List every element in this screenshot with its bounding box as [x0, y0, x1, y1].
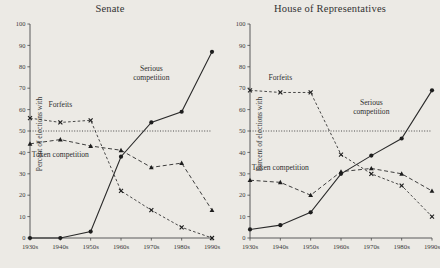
data-point-serious-competition: [58, 236, 62, 240]
chart-svg-house: 01020304050607080901001930s1940s1950s196…: [220, 0, 440, 268]
x-tick-label: 1940s: [52, 243, 69, 250]
data-point-token-competition: [179, 161, 184, 165]
annotation-forfeits: Forfeits: [49, 100, 73, 109]
figure-root: Senate Percent of elections with 0102030…: [0, 0, 440, 268]
y-tick-label: 80: [239, 63, 246, 70]
data-point-serious-competition: [248, 227, 252, 231]
chart-panel-senate: Senate Percent of elections with 0102030…: [0, 0, 220, 268]
y-tick-label: 50: [239, 127, 246, 134]
y-tick-label: 80: [19, 63, 26, 70]
x-tick-label: 1960s: [113, 243, 130, 250]
data-point-serious-competition: [28, 236, 32, 240]
x-tick-label: 1940s: [272, 243, 289, 250]
y-tick-label: 30: [19, 170, 26, 177]
chart-panel-house: House of Representatives Percent of elec…: [220, 0, 440, 268]
y-tick-label: 60: [239, 106, 246, 113]
data-point-serious-competition: [89, 229, 93, 233]
x-tick-label: 1980s: [394, 243, 411, 250]
annotation-serious-competition: competition: [133, 73, 169, 82]
x-tick-label: 1990s: [424, 243, 440, 250]
x-tick-label: 1970s: [363, 243, 380, 250]
annotation-serious-competition: Serious: [360, 98, 383, 107]
data-point-token-competition: [430, 188, 435, 192]
data-point-serious-competition: [119, 155, 123, 159]
data-point-serious-competition: [430, 88, 434, 92]
series-line-forfeits: [250, 90, 432, 216]
series-line-serious-competition: [250, 90, 432, 229]
plot-area-senate: 01020304050607080901001930s1940s1950s196…: [0, 0, 220, 268]
data-point-serious-competition: [400, 136, 404, 140]
x-tick-label: 1930s: [242, 243, 259, 250]
data-point-token-competition: [369, 166, 374, 170]
x-tick-label: 1950s: [303, 243, 320, 250]
y-tick-label: 100: [236, 20, 246, 27]
data-point-token-competition: [339, 169, 344, 173]
chart-svg-senate: 01020304050607080901001930s1940s1950s196…: [0, 0, 220, 268]
y-tick-label: 40: [239, 149, 246, 156]
x-tick-label: 1990s: [204, 243, 221, 250]
y-tick-label: 70: [239, 84, 246, 91]
y-tick-label: 90: [239, 42, 246, 49]
data-point-serious-competition: [210, 50, 214, 54]
data-point-serious-competition: [369, 154, 373, 158]
data-point-serious-competition: [180, 110, 184, 114]
y-tick-label: 60: [19, 106, 26, 113]
series-line-serious-competition: [30, 52, 212, 238]
annotation-serious-competition: competition: [353, 107, 389, 116]
y-tick-label: 30: [239, 170, 246, 177]
data-point-token-competition: [58, 137, 63, 141]
y-tick-label: 100: [16, 20, 26, 27]
y-tick-label: 70: [19, 84, 26, 91]
y-tick-label: 40: [19, 149, 26, 156]
y-tick-label: 20: [19, 191, 26, 198]
x-tick-label: 1950s: [83, 243, 100, 250]
y-tick-label: 0: [22, 234, 25, 241]
x-tick-label: 1980s: [174, 243, 191, 250]
series-line-forfeits: [30, 118, 212, 238]
y-tick-label: 0: [242, 234, 245, 241]
y-tick-label: 10: [19, 213, 26, 220]
annotation-forfeits: Forfeits: [269, 73, 293, 82]
data-point-serious-competition: [278, 223, 282, 227]
annotation-serious-competition: Serious: [140, 64, 163, 73]
data-point-token-competition: [119, 148, 124, 152]
y-tick-label: 20: [239, 191, 246, 198]
data-point-serious-competition: [149, 120, 153, 124]
annotation-token-competition: Token competition: [252, 163, 309, 172]
plot-area-house: 01020304050607080901001930s1940s1950s196…: [220, 0, 440, 268]
y-tick-label: 90: [19, 42, 26, 49]
data-point-serious-competition: [309, 210, 313, 214]
x-tick-label: 1960s: [333, 243, 350, 250]
x-tick-label: 1930s: [22, 243, 39, 250]
y-tick-label: 10: [239, 213, 246, 220]
annotation-token-competition: Token competition: [32, 150, 89, 159]
y-tick-label: 50: [19, 127, 26, 134]
x-tick-label: 1970s: [143, 243, 160, 250]
